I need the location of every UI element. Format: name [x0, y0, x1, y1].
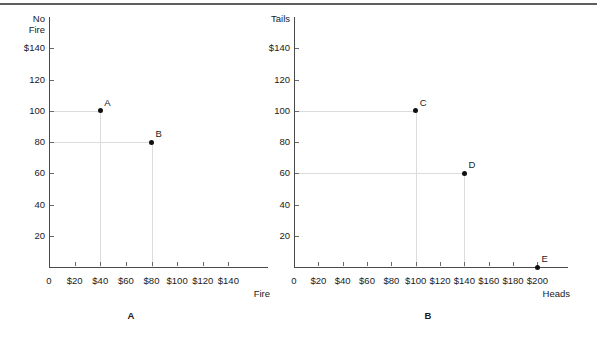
panel-b-guide-v-c	[416, 111, 417, 267]
panel-b-x-tick	[416, 262, 417, 266]
panel-b-y-tick	[295, 173, 299, 174]
panel-b-point-label-c: C	[420, 98, 427, 108]
panel-b-point-label-d: D	[468, 160, 475, 170]
panel-b-point-d	[462, 171, 467, 176]
panel-b-point-label-e: E	[541, 254, 547, 264]
panel-b-guide-v-d	[464, 173, 465, 267]
panel-b-x-tick	[318, 262, 319, 266]
panel-b-y-tick-label: 100	[248, 106, 290, 116]
panel-b-guide-h-c	[294, 111, 416, 112]
panel-b-y-tick-label: $140	[248, 43, 290, 53]
panel-b-y-tick	[295, 48, 299, 49]
panel-b-y-tick	[295, 236, 299, 237]
panel-b-y-tick	[295, 205, 299, 206]
panel-b-point-e	[535, 265, 540, 270]
panel-b-y-tick-label: 20	[248, 231, 290, 241]
panel-b-y-tick-label: 80	[248, 137, 290, 147]
panel-b-y-tick	[295, 111, 299, 112]
panel-b-x-tick	[464, 262, 465, 266]
panel-b-x-axis-title: Heads	[294, 289, 570, 299]
panel-b: $140120100806040200$20$40$60$80$100$120$…	[0, 0, 597, 338]
panel-b-y-tick	[295, 142, 299, 143]
panel-b-y-axis-title: Tails	[248, 13, 290, 24]
panel-b-x-tick	[513, 262, 514, 266]
panel-b-x-tick	[391, 262, 392, 266]
panel-b-y-tick	[295, 80, 299, 81]
panel-b-x-tick	[489, 262, 490, 266]
panel-b-guide-h-d	[294, 173, 464, 174]
panel-b-caption: B	[408, 311, 448, 321]
panel-b-y-axis-title-line1: Tails	[248, 13, 290, 24]
panel-b-x-tick-label: $200	[515, 276, 559, 286]
panel-b-point-c	[413, 108, 418, 113]
panel-b-y-tick-label: 40	[248, 200, 290, 210]
panel-b-x-tick	[367, 262, 368, 266]
panel-b-y-tick-label: 120	[248, 75, 290, 85]
panel-b-x-tick	[440, 262, 441, 266]
panel-b-y-tick-label: 60	[248, 168, 290, 178]
panel-b-x-tick	[343, 262, 344, 266]
panel-b-x-axis	[294, 267, 568, 268]
